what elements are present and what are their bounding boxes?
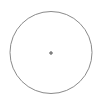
center-crosshair-icon — [49, 51, 53, 55]
diagram-canvas — [0, 0, 100, 102]
circle-diagram — [0, 0, 100, 102]
